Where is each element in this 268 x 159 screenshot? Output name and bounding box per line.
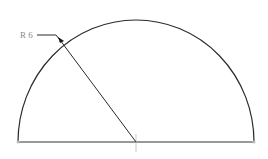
radius-label: R 6: [20, 30, 33, 40]
radius-line: [60, 40, 136, 142]
radius-leader-line: [37, 35, 60, 40]
semicircle-diagram: R 6: [0, 0, 268, 159]
left-endpoint-marker: [17, 141, 20, 144]
semicircle-arc: [18, 20, 254, 142]
right-endpoint-marker: [253, 141, 256, 144]
